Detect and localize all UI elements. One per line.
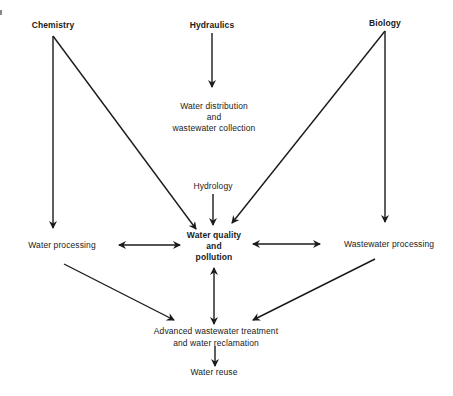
node-biology-label: Biology [369, 17, 401, 29]
node-chemistry-label: Chemistry [32, 19, 74, 31]
node-advanced-treatment-line-2: and water reclamation [154, 337, 278, 349]
node-hydrology: Hydrology [193, 180, 232, 192]
node-water-reuse: Water reuse [190, 366, 237, 378]
node-water-distribution: Water distribution and wastewater collec… [173, 101, 256, 134]
node-water-reuse-label: Water reuse [190, 366, 237, 378]
node-water-processing-label: Water processing [28, 239, 95, 251]
arrow-water-processing-to-advanced-treatment [64, 264, 174, 320]
node-water-distribution-line-3: wastewater collection [173, 123, 256, 134]
arrow-wastewater-processing-to-advanced-treatment [253, 259, 375, 320]
node-advanced-treatment: Advanced wastewater treatment and water … [154, 325, 278, 349]
node-water-quality-line-2: and [187, 241, 241, 252]
node-wastewater-processing-label: Wastewater processing [344, 238, 434, 250]
diagram-canvas: Chemistry Hydraulics Biology Water distr… [0, 0, 453, 396]
node-wastewater-processing: Wastewater processing [344, 238, 434, 250]
node-water-quality-line-1: Water quality [187, 230, 241, 241]
node-biology: Biology [369, 17, 401, 29]
node-advanced-treatment-line-1: Advanced wastewater treatment [154, 325, 278, 337]
node-water-distribution-line-1: Water distribution [173, 101, 256, 112]
node-hydrology-label: Hydrology [193, 180, 232, 192]
node-hydraulics-label: Hydraulics [190, 19, 234, 31]
node-water-processing: Water processing [28, 239, 95, 251]
node-water-quality-line-3: pollution [187, 252, 241, 263]
node-chemistry: Chemistry [32, 19, 74, 31]
node-water-distribution-line-2: and [173, 112, 256, 123]
node-water-quality: Water quality and pollution [187, 230, 241, 263]
node-hydraulics: Hydraulics [190, 19, 234, 31]
